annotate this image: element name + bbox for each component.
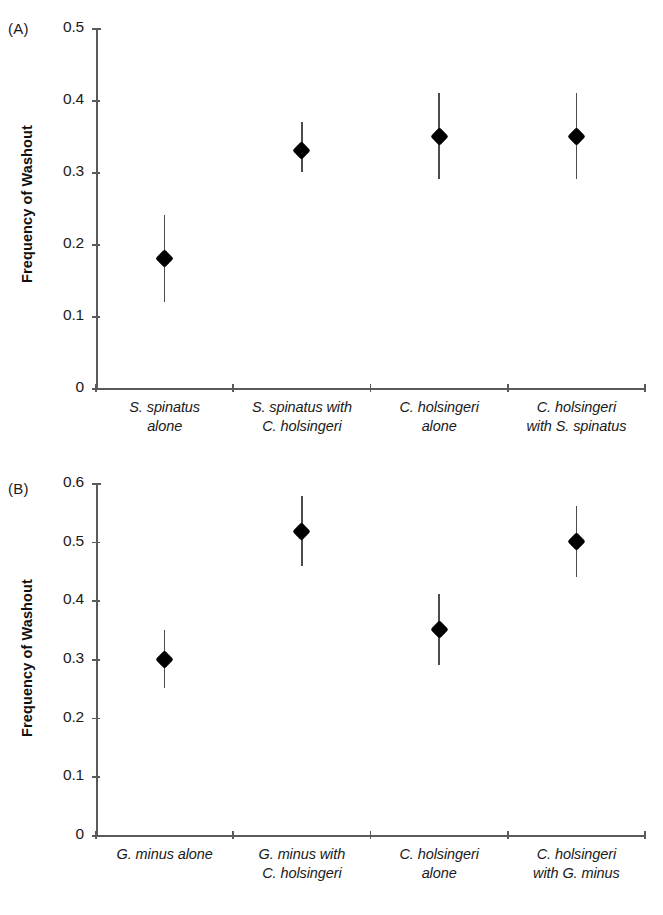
data-point-marker — [293, 141, 311, 159]
y-tick-label: 0.2 — [18, 708, 84, 726]
figure: (A) Frequency of Washout 00.10.20.30.40.… — [0, 0, 663, 915]
data-point-marker — [430, 127, 448, 145]
data-point-marker — [567, 127, 585, 145]
y-tick-label: 0 — [18, 825, 84, 843]
y-tick — [92, 718, 100, 720]
y-tick-label: 0.3 — [18, 649, 84, 667]
panel-a-plot-area: 00.10.20.30.40.5S. spinatusaloneS. spina… — [0, 0, 663, 455]
y-tick — [92, 483, 101, 485]
y-tick-label: 0.2 — [18, 234, 84, 252]
x-category-label: C. holsingerialone — [365, 398, 514, 436]
x-tick — [370, 384, 372, 392]
x-category-label: C. holsingerialone — [365, 845, 514, 883]
y-tick-label: 0.6 — [18, 473, 84, 491]
data-point-marker — [430, 620, 448, 638]
y-tick — [92, 244, 100, 246]
data-point-marker — [155, 249, 173, 267]
y-tick — [92, 600, 100, 602]
y-tick — [92, 100, 100, 102]
x-tick — [232, 831, 234, 839]
y-tick-label: 0.5 — [18, 18, 84, 36]
y-tick-label: 0.5 — [18, 532, 84, 550]
panel-b-plot-area: 00.10.20.30.40.50.6G. minus aloneG. minu… — [0, 455, 663, 915]
y-tick-label: 0.1 — [18, 306, 84, 324]
x-tick — [644, 831, 646, 839]
panel-b: (B) Frequency of Washout 00.10.20.30.40.… — [0, 455, 663, 915]
data-point-marker — [567, 532, 585, 550]
x-category-label: C. holsingeriwith S. spinatus — [502, 398, 651, 436]
x-tick — [507, 831, 509, 839]
x-tick — [95, 384, 97, 392]
x-category-label: C. holsingeriwith G. minus — [502, 845, 651, 883]
y-tick — [92, 659, 100, 661]
y-tick — [92, 28, 101, 30]
x-category-label: G. minus alone — [90, 845, 239, 864]
y-tick-label: 0.3 — [18, 162, 84, 180]
x-tick — [370, 831, 372, 839]
y-tick-label: 0.1 — [18, 766, 84, 784]
y-tick-label: 0.4 — [18, 90, 84, 108]
data-point-marker — [293, 522, 311, 540]
x-category-label: S. spinatusalone — [90, 398, 239, 436]
x-tick — [232, 384, 234, 392]
x-category-label: G. minus withC. holsingeri — [227, 845, 376, 883]
y-tick-label: 0.4 — [18, 590, 84, 608]
y-tick — [92, 542, 100, 544]
panel-a: (A) Frequency of Washout 00.10.20.30.40.… — [0, 0, 663, 455]
y-tick — [92, 776, 100, 778]
x-tick — [95, 831, 97, 839]
x-tick — [507, 384, 509, 392]
y-tick-label: 0 — [18, 378, 84, 396]
data-point-marker — [155, 650, 173, 668]
y-axis-line — [96, 28, 98, 388]
x-tick — [644, 384, 646, 392]
x-category-label: S. spinatus withC. holsingeri — [227, 398, 376, 436]
y-tick — [92, 316, 100, 318]
y-tick — [92, 172, 100, 174]
